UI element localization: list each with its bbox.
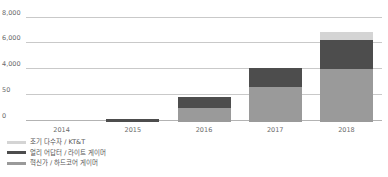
plot-area bbox=[26, 10, 382, 122]
bar-slot-2016 bbox=[168, 10, 239, 122]
legend-item-early-majority: 조기 다수자 / KT&T bbox=[7, 138, 106, 146]
bar-segment-early-adopter bbox=[320, 40, 373, 69]
bar-segment-innovator bbox=[249, 87, 302, 122]
legend-item-label: 얼리 어답터 / 라이트 게이머 bbox=[30, 149, 106, 157]
bar-slot-2018 bbox=[311, 10, 382, 122]
y-tick-label: 8,000 bbox=[2, 10, 21, 17]
bar-segment-early-majority bbox=[320, 32, 373, 40]
bar-segment-early-adopter bbox=[178, 97, 231, 108]
x-tick-label-2015: 2015 bbox=[97, 124, 168, 136]
x-tick-label-2014: 2014 bbox=[26, 124, 97, 136]
bar-segment-innovator bbox=[178, 108, 231, 122]
bar-segment-innovator bbox=[320, 69, 373, 122]
y-tick-label: 50 bbox=[2, 87, 10, 94]
legend-item-label: 혁신가 / 하드코어 게이머 bbox=[30, 159, 98, 167]
bar-slot-2017 bbox=[240, 10, 311, 122]
bar-segment-early-adopter bbox=[249, 68, 302, 87]
bar-stack bbox=[320, 32, 373, 122]
bar-segment-early-adopter bbox=[106, 119, 159, 122]
bar-group bbox=[26, 10, 382, 122]
stacked-bar-chart: 8,000 6,000 4,000 50 0 2014 2015 2016 20… bbox=[0, 0, 388, 177]
bar-stack bbox=[249, 68, 302, 122]
bar-stack bbox=[106, 119, 159, 122]
x-tick-label-2017: 2017 bbox=[240, 124, 311, 136]
legend-item-innovator: 혁신가 / 하드코어 게이머 bbox=[7, 159, 106, 167]
legend-item-label: 조기 다수자 / KT&T bbox=[30, 138, 85, 146]
x-tick-label-2016: 2016 bbox=[168, 124, 239, 136]
y-tick-label: 4,000 bbox=[2, 61, 21, 68]
legend-swatch-icon bbox=[7, 151, 26, 154]
legend-swatch-icon bbox=[7, 141, 26, 144]
y-tick-label: 6,000 bbox=[2, 35, 21, 42]
x-axis: 2014 2015 2016 2017 2018 bbox=[26, 124, 382, 136]
legend: 조기 다수자 / KT&T 얼리 어답터 / 라이트 게이머 혁신가 / 하드코… bbox=[7, 138, 106, 167]
bar-slot-2015 bbox=[97, 10, 168, 122]
bar-stack bbox=[178, 97, 231, 122]
x-tick-label-2018: 2018 bbox=[311, 124, 382, 136]
bar-slot-2014 bbox=[26, 10, 97, 122]
legend-swatch-icon bbox=[7, 162, 26, 165]
y-tick-label: 0 bbox=[2, 113, 6, 120]
legend-item-early-adopter: 얼리 어답터 / 라이트 게이머 bbox=[7, 149, 106, 157]
